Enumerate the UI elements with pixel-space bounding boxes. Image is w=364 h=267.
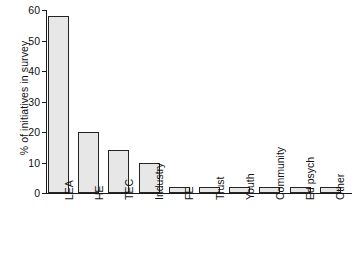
x-tick-label: Community [275,147,286,200]
x-tick-label: HE [94,185,105,200]
x-tick-label: LEA [64,180,75,200]
x-tick-label: Ed psych [305,157,316,200]
x-tick-label: Industry [154,163,165,200]
bar [48,16,69,193]
x-tick-label: FE [184,187,195,200]
y-tick-label: 0 [18,188,40,198]
y-tick-label: 60 [18,5,40,15]
y-tick-label: 30 [18,97,40,107]
x-tick-label: Other [335,174,346,200]
bar [78,132,99,193]
x-tick-label: Youth [245,174,256,200]
bar-chart: % of initiatives in survey 6050403020100… [0,0,364,267]
y-tick-label: 10 [18,158,40,168]
x-tick-label: TEC [124,179,135,200]
y-tick-label: 20 [18,127,40,137]
y-tick-label: 40 [18,66,40,76]
y-tick-label: 50 [18,36,40,46]
x-tick-label: Trust [215,176,226,200]
